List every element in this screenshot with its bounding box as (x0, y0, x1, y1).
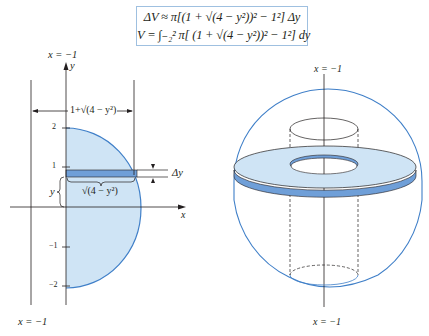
axis-label-bottom-right: x = −1 (313, 316, 341, 327)
axis-label-top-right: x = −1 (314, 63, 342, 74)
right-figure (0, 0, 429, 336)
